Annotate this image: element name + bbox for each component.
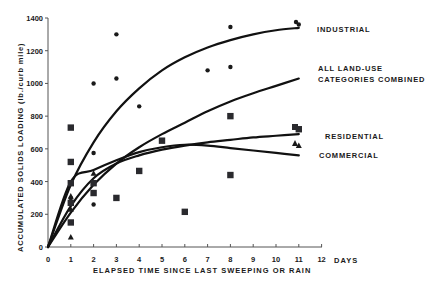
residential-point: [227, 113, 233, 119]
x-tick-label: 9: [251, 255, 255, 264]
label-combined-1: ALL LAND-USE: [318, 64, 383, 73]
commercial-point: [68, 193, 74, 199]
residential-point: [136, 168, 142, 174]
legend-commercial-marker: [292, 140, 298, 146]
x-tick-label: 4: [137, 255, 142, 264]
label-residential: RESIDENTIAL: [325, 132, 384, 141]
chart: 0200400600800100012001400 01234567891011…: [0, 0, 436, 288]
industrial-point: [228, 65, 232, 69]
residential-point: [90, 180, 96, 186]
residential-point: [68, 180, 74, 186]
x-tick-label: 12: [317, 255, 325, 264]
industrial-point: [114, 76, 118, 80]
x-tick-label: 7: [206, 255, 210, 264]
industrial-point: [205, 68, 209, 72]
industrial-point: [91, 151, 95, 155]
y-tick-label: 800: [30, 112, 43, 121]
y-tick-label: 0: [39, 243, 43, 252]
label-industrial: INDUSTRIAL: [317, 25, 370, 34]
commercial-point: [68, 234, 74, 240]
residential-point: [68, 124, 74, 130]
x-axis-unit: DAYS: [334, 256, 358, 265]
x-tick-label: 2: [92, 255, 96, 264]
y-tick-label: 1400: [26, 14, 43, 23]
legend-industrial-marker: [294, 20, 298, 24]
residential-point: [227, 172, 233, 178]
x-tick-label: 1: [69, 255, 73, 264]
residential-point: [68, 219, 74, 225]
y-axis-title: ACCUMULATED SOLIDS LOADING (lb./curb mil…: [16, 43, 25, 252]
residential-point: [68, 159, 74, 165]
industrial-point: [91, 202, 95, 206]
curve-commercial: [48, 145, 299, 247]
industrial-point: [137, 104, 141, 108]
industrial-point: [114, 32, 118, 36]
residential-point: [90, 190, 96, 196]
y-tick-label: 1200: [26, 47, 43, 56]
y-tick-label: 1000: [26, 79, 43, 88]
fitted-curves: [48, 28, 299, 247]
legend-residential-marker: [292, 124, 298, 130]
x-axis-title: ELAPSED TIME SINCE LAST SWEEPING OR RAIN: [93, 266, 311, 275]
y-tick-label: 600: [30, 145, 43, 154]
residential-point: [113, 195, 119, 201]
x-tick-label: 3: [114, 255, 118, 264]
y-tick-label: 400: [30, 178, 43, 187]
x-tick-label: 0: [46, 255, 50, 264]
label-combined-2: CATEGORIES COMBINED: [318, 75, 425, 84]
residential-point: [159, 137, 165, 143]
industrial-point: [91, 81, 95, 85]
x-tick-label: 6: [183, 255, 187, 264]
label-commercial: COMMERCIAL: [319, 151, 379, 160]
y-tick-label: 200: [30, 210, 43, 219]
x-tick-label: 8: [228, 255, 232, 264]
y-ticks: 0200400600800100012001400: [26, 14, 48, 252]
residential-point: [68, 200, 74, 206]
industrial-point: [228, 25, 232, 29]
x-tick-label: 10: [272, 255, 280, 264]
residential-point: [182, 209, 188, 215]
x-tick-label: 5: [160, 255, 164, 264]
x-tick-label: 11: [295, 255, 303, 264]
curve-all: [48, 79, 299, 247]
